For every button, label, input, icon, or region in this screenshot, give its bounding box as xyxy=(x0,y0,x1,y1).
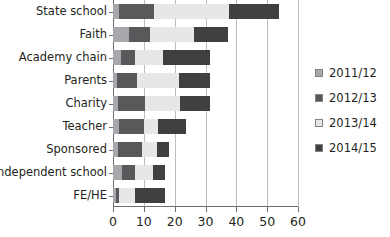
legend-item-2014-15[interactable]: 2014/15 xyxy=(315,135,390,160)
bar-row xyxy=(113,0,298,23)
stacked-bar xyxy=(113,119,186,134)
category-label: Parents xyxy=(0,69,107,92)
bar-segment-2013-14 xyxy=(145,96,180,111)
bar-segment-2014-15 xyxy=(163,50,210,65)
chart-legend: 2011/122012/132013/142014/15 xyxy=(315,60,390,160)
bar-segment-2012-13 xyxy=(117,73,137,88)
bar-segment-2013-14 xyxy=(135,50,163,65)
legend-label: 2011/12 xyxy=(329,66,377,80)
x-tick-mark xyxy=(267,207,268,212)
bar-segment-2014-15 xyxy=(179,73,210,88)
stacked-bar xyxy=(113,96,210,111)
bar-row xyxy=(113,92,298,115)
category-label: Independent school xyxy=(0,161,107,184)
stacked-bar xyxy=(113,188,165,203)
bar-segment-2014-15 xyxy=(153,165,165,180)
stacked-bar xyxy=(113,142,169,157)
x-tick-label: 60 xyxy=(278,214,318,229)
legend-swatch-icon xyxy=(315,94,323,102)
bar-row xyxy=(113,69,298,92)
bar-row xyxy=(113,23,298,46)
bar-segment-2013-14 xyxy=(135,165,153,180)
bar-row xyxy=(113,138,298,161)
category-label: Sponsored xyxy=(0,138,107,161)
stacked-bar xyxy=(113,4,279,19)
legend-label: 2012/13 xyxy=(329,91,377,105)
bar-row xyxy=(113,115,298,138)
bar-segment-2014-15 xyxy=(180,96,210,111)
bar-segment-2012-13 xyxy=(122,165,135,180)
category-label: Faith xyxy=(0,23,107,46)
bar-segment-2012-13 xyxy=(121,50,135,65)
x-tick-mark xyxy=(144,207,145,212)
legend-item-2013-14[interactable]: 2013/14 xyxy=(315,110,390,135)
stacked-bar xyxy=(113,73,210,88)
bar-segment-2014-15 xyxy=(158,119,186,134)
bar-segment-2011-12 xyxy=(113,27,129,42)
bar-row xyxy=(113,184,298,207)
gridline-60 xyxy=(298,0,299,207)
bar-segment-2011-12 xyxy=(113,165,122,180)
plot-area xyxy=(113,0,298,207)
legend-swatch-icon xyxy=(315,69,323,77)
bar-segment-2012-13 xyxy=(129,27,150,42)
bar-segment-2011-12 xyxy=(113,50,121,65)
bar-row xyxy=(113,46,298,69)
bar-segment-2012-13 xyxy=(118,96,145,111)
bar-segment-2014-15 xyxy=(229,4,279,19)
bar-segment-2013-14 xyxy=(119,188,135,203)
bar-segment-2014-15 xyxy=(157,142,169,157)
category-label: Academy chain xyxy=(0,46,107,69)
bar-segment-2014-15 xyxy=(194,27,228,42)
x-tick-mark xyxy=(113,207,114,212)
bar-segment-2013-14 xyxy=(144,119,158,134)
x-axis: 0102030405060 xyxy=(113,207,298,237)
bar-segment-2013-14 xyxy=(154,4,229,19)
bar-segment-2013-14 xyxy=(137,73,179,88)
x-tick-mark xyxy=(298,207,299,212)
legend-label: 2013/14 xyxy=(329,116,377,130)
legend-label: 2014/15 xyxy=(329,141,377,155)
stacked-bar xyxy=(113,50,210,65)
stacked-bar-chart: State schoolFaithAcademy chainParentsCha… xyxy=(0,0,390,237)
category-label: Charity xyxy=(0,92,107,115)
bar-segment-2012-13 xyxy=(119,4,154,19)
legend-swatch-icon xyxy=(315,119,323,127)
stacked-bar xyxy=(113,27,228,42)
stacked-bar xyxy=(113,165,165,180)
category-label: Teacher xyxy=(0,115,107,138)
bar-segment-2014-15 xyxy=(135,188,165,203)
x-tick-mark xyxy=(236,207,237,212)
legend-item-2011-12[interactable]: 2011/12 xyxy=(315,60,390,85)
legend-item-2012-13[interactable]: 2012/13 xyxy=(315,85,390,110)
bar-segment-2012-13 xyxy=(119,119,144,134)
x-tick-mark xyxy=(175,207,176,212)
legend-swatch-icon xyxy=(315,144,323,152)
bar-segment-2013-14 xyxy=(150,27,194,42)
bar-segment-2012-13 xyxy=(118,142,142,157)
x-tick-mark xyxy=(206,207,207,212)
category-label: FE/HE xyxy=(0,184,107,207)
bar-segment-2013-14 xyxy=(142,142,157,157)
category-label: State school xyxy=(0,0,107,23)
bar-row xyxy=(113,161,298,184)
